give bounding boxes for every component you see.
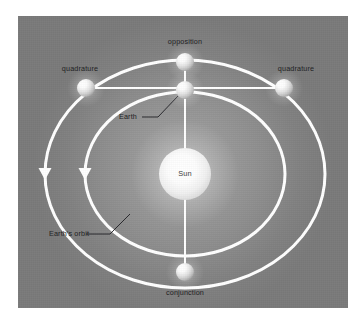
label-quadrature-left: quadrature [62, 65, 98, 72]
opposition-body [176, 53, 194, 71]
diagram-panel: opposition quadrature quadrature Earth S… [18, 16, 348, 308]
quadrature-right-body [275, 79, 293, 97]
earth-orbit-direction-arrow-icon [79, 168, 92, 180]
astronomy-diagram: opposition quadrature quadrature Earth S… [0, 0, 364, 322]
earth-body [176, 81, 194, 99]
label-earths-orbit: Earth's orbit [49, 230, 89, 237]
label-opposition: opposition [168, 38, 202, 45]
label-conjunction: conjunction [166, 289, 204, 296]
quadrature-left-body [77, 79, 95, 97]
earths-orbit-leader-line [86, 214, 130, 234]
label-quadrature-right: quadrature [278, 65, 314, 72]
label-sun: Sun [178, 170, 192, 177]
label-earth: Earth [119, 113, 137, 120]
conjunction-body [176, 263, 194, 281]
outer-orbit-direction-arrow-icon [39, 168, 52, 180]
diagram-canvas [18, 16, 348, 308]
